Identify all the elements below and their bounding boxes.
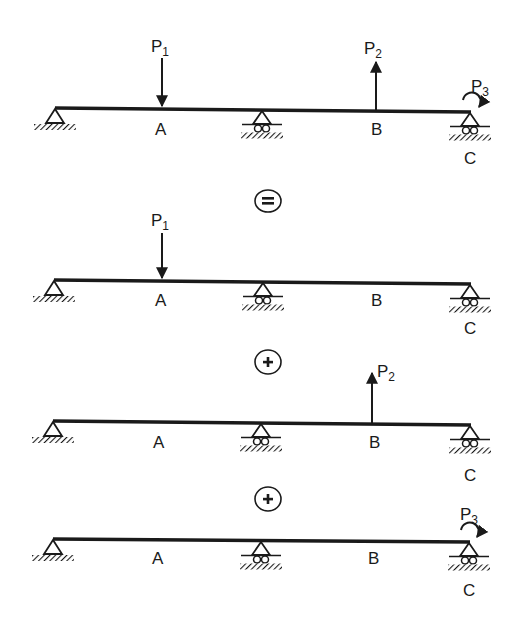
beam-case-3: P3 A B C: [32, 505, 490, 600]
roller-support-c: [449, 113, 491, 141]
label-c: C: [463, 581, 475, 600]
pin-support: [34, 109, 76, 130]
label-b: B: [369, 433, 380, 452]
plus-operator: [255, 350, 281, 374]
beam-case-2: P2 A B C: [32, 362, 491, 485]
label-a: A: [155, 291, 167, 310]
label-a: A: [152, 549, 164, 568]
pin-support: [33, 281, 75, 302]
pin-support: [32, 540, 74, 561]
p2-label: P2: [364, 39, 382, 61]
label-b: B: [371, 291, 382, 310]
roller-support-c: [448, 543, 490, 571]
label-a: A: [155, 120, 167, 139]
p1-label: P1: [151, 211, 169, 233]
p3-label: P3: [471, 77, 489, 99]
plus-operator: [255, 487, 281, 511]
label-c: C: [464, 466, 476, 485]
roller-support-middle: [240, 424, 282, 452]
label-b: B: [371, 120, 382, 139]
beam-case-1: P1 A B C: [33, 211, 491, 338]
equals-operator: [255, 190, 281, 212]
label-c: C: [464, 319, 476, 338]
p3-label: P3: [460, 505, 478, 527]
label-c: C: [464, 149, 476, 168]
roller-support-middle: [240, 542, 282, 570]
label-b: B: [368, 549, 379, 568]
roller-support-c: [449, 285, 491, 313]
label-a: A: [153, 433, 165, 452]
p1-label: P1: [151, 37, 169, 59]
roller-support-middle: [241, 111, 283, 139]
pin-support: [32, 422, 74, 443]
superposition-diagram: P1 P2 P3 A B C P1 A B C: [0, 0, 521, 617]
roller-support-middle: [242, 283, 284, 311]
p2-label: P2: [377, 362, 395, 384]
beam-combined: P1 P2 P3 A B C: [34, 37, 491, 168]
roller-support-c: [449, 426, 491, 454]
